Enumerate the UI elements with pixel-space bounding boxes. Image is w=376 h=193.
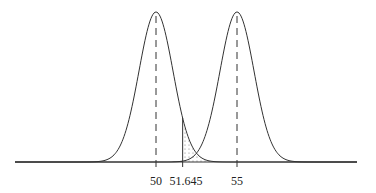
- alpha-region: [183, 118, 300, 162]
- tick-label-50: 50: [150, 174, 162, 189]
- chart: 50 51.645 55: [0, 0, 376, 193]
- chart-svg: [0, 0, 376, 193]
- plot-area: [15, 12, 357, 168]
- tick-label-55: 55: [231, 174, 243, 189]
- tick-label-critical: 51.645: [170, 174, 203, 189]
